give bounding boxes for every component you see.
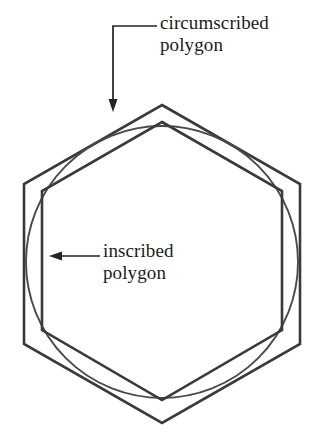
circumscribed-label-line-2: polygon xyxy=(160,34,269,56)
circumscribed-label-line-1: circumscribed xyxy=(160,12,269,34)
inscribed-label-line-1: inscribed xyxy=(103,240,174,262)
inscribed-label-line-2: polygon xyxy=(103,262,174,284)
circumscribed-arrow-head-icon xyxy=(109,99,118,112)
inscribed-arrow-head-icon xyxy=(49,252,62,261)
figure-canvas xyxy=(0,0,323,437)
geometry-figure: circumscribed polygon inscribed polygon xyxy=(0,0,323,437)
circumscribed-leader-line xyxy=(113,26,157,103)
inscribed-polygon-label: inscribed polygon xyxy=(103,240,174,284)
circumscribed-polygon-label: circumscribed polygon xyxy=(160,12,269,56)
